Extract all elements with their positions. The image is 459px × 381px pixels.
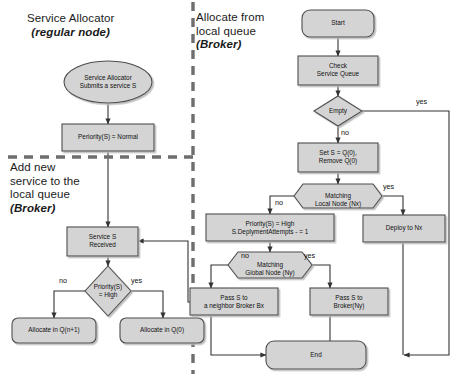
node-set-s: [298, 143, 378, 172]
node-check-queue: [298, 56, 378, 85]
node-service-received: [67, 227, 138, 256]
section-title-line3: local queue: [10, 188, 70, 200]
node-pass-broker-ny: [310, 288, 388, 315]
node-allocate-q0: [120, 318, 204, 343]
section-title-service-allocator: Service Allocator (regular node): [27, 12, 114, 39]
section-title-line3: (Broker): [196, 38, 242, 50]
node-priority-normal: [62, 124, 154, 151]
section-title-line2: service to the: [10, 175, 80, 187]
node-pass-neighbor: [190, 288, 278, 315]
node-priority-high-set: [206, 214, 334, 241]
node-priority-high-decision: [85, 266, 131, 316]
section-title-line1: Service Allocator: [27, 12, 114, 24]
node-end: [266, 341, 366, 369]
node-matching-local: [294, 184, 382, 208]
node-matching-global: [228, 252, 312, 278]
section-title-line2: local queue: [196, 25, 256, 37]
node-submit: [64, 61, 152, 103]
node-allocate-qn1: [12, 318, 96, 343]
node-empty-decision: [314, 96, 362, 126]
node-deploy-nx: [363, 215, 445, 242]
section-title-line4: (Broker): [10, 202, 56, 214]
flowchart-figure: Service Allocator (regular node) Add new…: [0, 0, 459, 381]
section-title-add-new-service: Add new service to the local queue (Brok…: [10, 161, 80, 215]
section-title-line1: Allocate from: [196, 11, 264, 23]
node-start: [302, 10, 374, 37]
section-title-line2: (regular node): [31, 26, 110, 38]
section-title-allocate-from-local-queue: Allocate from local queue (Broker): [196, 11, 264, 52]
section-title-line1: Add new: [10, 161, 55, 173]
